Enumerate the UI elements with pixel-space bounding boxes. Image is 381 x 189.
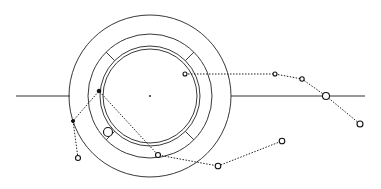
center-dot xyxy=(149,95,151,97)
trajectory-point xyxy=(97,89,101,93)
orbital-diagram xyxy=(0,0,381,189)
trajectory-point xyxy=(76,156,81,161)
trajectory-points xyxy=(72,72,364,169)
trajectory-left xyxy=(73,91,282,166)
trajectory-point xyxy=(357,121,363,127)
trajectory-point xyxy=(72,120,75,123)
segment-divider xyxy=(185,131,193,139)
segment-divider xyxy=(185,52,193,60)
trajectory-point xyxy=(279,138,285,144)
segment-divider xyxy=(106,52,114,60)
trajectory-point xyxy=(215,163,221,169)
trajectory-right xyxy=(185,74,360,124)
trajectory-point xyxy=(156,153,161,158)
diagram-canvas xyxy=(0,0,381,189)
large-marker xyxy=(104,128,113,137)
trajectory-point xyxy=(183,72,187,76)
trajectory-paths xyxy=(73,74,360,166)
trajectory-point xyxy=(323,93,330,100)
center-point xyxy=(149,95,151,97)
trajectory-point xyxy=(273,72,277,76)
trajectory-point xyxy=(300,77,304,81)
